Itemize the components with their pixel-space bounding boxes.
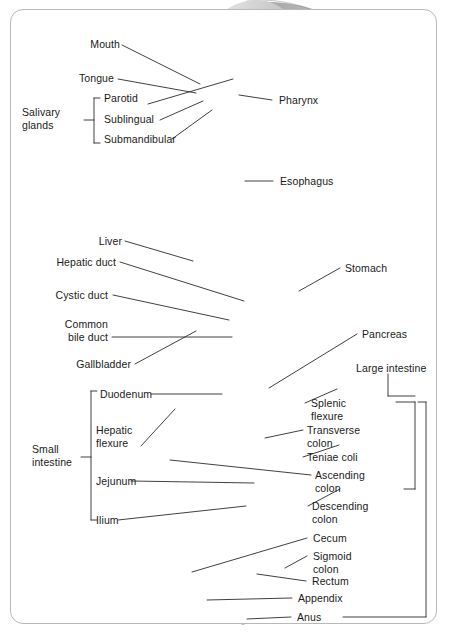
digestive-system-figure: Mouth Tongue Salivary glands Parotid Sub…: [0, 0, 449, 640]
label-sublingual[interactable]: Sublingual: [104, 113, 154, 126]
label-pancreas[interactable]: Pancreas: [362, 328, 407, 341]
label-parotid[interactable]: Parotid: [104, 92, 138, 105]
label-large-intestine[interactable]: Large intestine: [356, 362, 426, 375]
label-splenic-flexure-line1: Splenic: [311, 397, 346, 410]
label-liver[interactable]: Liver: [50, 235, 122, 248]
label-salivary-glands[interactable]: Salivary glands: [22, 106, 82, 131]
label-salivary-glands-line2: glands: [22, 119, 82, 132]
label-stomach[interactable]: Stomach: [345, 262, 387, 275]
label-tongue[interactable]: Tongue: [22, 72, 114, 85]
label-appendix[interactable]: Appendix: [298, 592, 343, 605]
label-duodenum[interactable]: Duodenum: [100, 388, 152, 401]
label-hepatic-flexure-line1: Hepatic: [96, 424, 132, 437]
label-jejunum[interactable]: Jejunum: [96, 475, 136, 488]
label-ascending-colon[interactable]: Ascending colon: [315, 469, 365, 494]
label-small-intestine-line1: Small: [32, 443, 80, 456]
label-esophagus[interactable]: Esophagus: [280, 175, 333, 188]
label-splenic-flexure-line2: flexure: [311, 410, 346, 423]
label-hepatic-flexure-line2: flexure: [96, 437, 132, 450]
label-descending-colon-line2: colon: [312, 513, 368, 526]
label-transverse-colon-line2: colon: [307, 437, 360, 450]
label-teniae-coli[interactable]: Teniae coli: [307, 451, 358, 464]
label-cecum[interactable]: Cecum: [313, 532, 347, 545]
label-hepatic-duct[interactable]: Hepatic duct: [20, 256, 116, 269]
label-descending-colon-line1: Descending: [312, 500, 368, 513]
label-common-bile-duct[interactable]: Common bile duct: [20, 318, 108, 343]
label-ascending-colon-line2: colon: [315, 482, 365, 495]
label-transverse-colon[interactable]: Transverse colon: [307, 424, 360, 449]
label-transverse-colon-line1: Transverse: [307, 424, 360, 437]
label-mouth[interactable]: Mouth: [22, 38, 120, 51]
label-rectum[interactable]: Rectum: [312, 575, 349, 588]
label-common-bile-duct-line1: Common: [20, 318, 108, 331]
label-submandibular[interactable]: Submandibular: [104, 133, 176, 146]
label-sigmoid-colon-line1: Sigmoid: [313, 550, 352, 563]
label-hepatic-flexure[interactable]: Hepatic flexure: [96, 424, 132, 449]
label-descending-colon[interactable]: Descending colon: [312, 500, 368, 525]
label-salivary-glands-line1: Salivary: [22, 106, 82, 119]
label-common-bile-duct-line2: bile duct: [20, 331, 108, 344]
label-small-intestine-line2: intestine: [32, 456, 80, 469]
label-gallbladder[interactable]: Gallbladder: [28, 358, 131, 371]
figure-border: [10, 9, 437, 624]
label-sigmoid-colon-line2: colon: [313, 563, 352, 576]
label-pharynx[interactable]: Pharynx: [279, 94, 318, 107]
label-ilium[interactable]: Ilium: [96, 514, 119, 527]
label-anus[interactable]: Anus: [297, 611, 321, 624]
label-ascending-colon-line1: Ascending: [315, 469, 365, 482]
label-cystic-duct[interactable]: Cystic duct: [20, 289, 108, 302]
label-sigmoid-colon[interactable]: Sigmoid colon: [313, 550, 352, 575]
label-small-intestine[interactable]: Small intestine: [32, 443, 80, 468]
label-splenic-flexure[interactable]: Splenic flexure: [311, 397, 346, 422]
